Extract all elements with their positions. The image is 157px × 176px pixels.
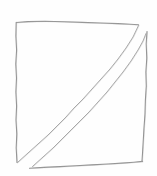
sketch-drawing xyxy=(0,0,157,176)
canvas-background xyxy=(0,0,157,176)
sketch-canvas xyxy=(0,0,157,176)
